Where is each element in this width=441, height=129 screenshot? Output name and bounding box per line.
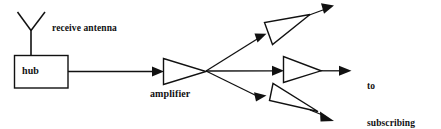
splitter-branch-upper bbox=[206, 34, 267, 72]
arrowhead-middle-output bbox=[339, 66, 352, 76]
arrowhead-lower-output bbox=[320, 112, 334, 122]
arrowhead-into-amplifier bbox=[152, 67, 164, 77]
upper-amplifier-output bbox=[308, 3, 334, 15]
hub-to-amplifier-connector bbox=[68, 67, 164, 77]
amplifier-main-triangle bbox=[164, 59, 207, 85]
amplifier-label: amplifier bbox=[150, 88, 190, 100]
arrowhead-into-upper-amplifier bbox=[255, 34, 267, 43]
splitter-branch-middle bbox=[206, 66, 284, 76]
splitter-branch-lower bbox=[206, 71, 267, 102]
arrowhead-into-lower-amplifier bbox=[254, 92, 267, 101]
receive-antenna-icon bbox=[18, 12, 46, 56]
lower-amplifier-output bbox=[310, 110, 334, 122]
destination-line-2: subscribing bbox=[367, 117, 415, 129]
middle-amplifier-output bbox=[320, 66, 352, 76]
amplifier-lower-triangle bbox=[270, 84, 319, 112]
destination-label: to subscribing households bbox=[367, 55, 415, 129]
amplifier-upper-triangle bbox=[265, 15, 311, 45]
destination-line-1: to bbox=[367, 80, 415, 92]
hub-label: hub bbox=[22, 65, 39, 77]
arrowhead-into-middle-amplifier bbox=[272, 66, 284, 76]
cable-distribution-diagram: receive antenna hub amplifier to subscri… bbox=[0, 0, 441, 129]
amplifier-middle-triangle bbox=[284, 57, 322, 83]
receive-antenna-label: receive antenna bbox=[52, 23, 117, 34]
arrowhead-upper-output bbox=[321, 3, 334, 14]
